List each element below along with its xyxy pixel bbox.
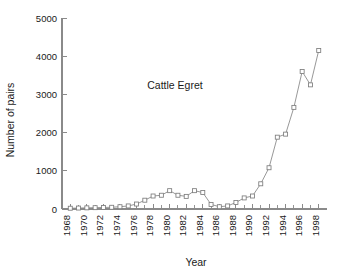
x-tick-label: 1974 <box>111 215 122 236</box>
y-axis <box>62 18 67 209</box>
data-point-marker <box>250 194 254 198</box>
data-point-marker <box>275 135 279 139</box>
data-point-marker <box>300 69 304 73</box>
data-point-marker <box>308 83 312 87</box>
data-point-marker <box>85 206 89 210</box>
cattle-egret-line-chart: 010002000300040005000 196819701972197419… <box>0 0 339 272</box>
x-tick-label: 1976 <box>128 215 139 236</box>
data-point-marker <box>209 202 213 206</box>
data-point-marker <box>118 205 122 209</box>
data-point-marker <box>151 194 155 198</box>
data-point-marker <box>242 196 246 200</box>
y-tick-label: 0 <box>52 204 57 215</box>
data-point-marker <box>110 205 114 209</box>
x-tick-label: 1992 <box>260 215 271 236</box>
y-tick-label: 3000 <box>36 89 57 100</box>
data-point-marker <box>217 205 221 209</box>
data-series-cattle-egret <box>68 48 320 210</box>
y-axis-title: Number of pairs <box>4 83 16 158</box>
data-point-marker <box>168 189 172 193</box>
data-point-marker <box>93 206 97 210</box>
data-point-marker <box>267 166 271 170</box>
x-tick-label: 1994 <box>277 215 288 236</box>
x-tick-label: 1990 <box>243 215 254 236</box>
x-tick-label: 1998 <box>310 215 321 236</box>
x-tick-label: 1988 <box>227 215 238 236</box>
y-tick-label: 2000 <box>36 127 57 138</box>
series-annotation-label: Cattle Egret <box>147 79 203 91</box>
x-tick-label: 1984 <box>194 215 205 236</box>
data-point-marker <box>284 132 288 136</box>
data-point-marker <box>176 193 180 197</box>
data-point-marker <box>259 182 263 186</box>
data-point-marker <box>126 204 130 208</box>
data-point-marker <box>143 198 147 202</box>
x-tick-label: 1980 <box>161 215 172 236</box>
data-point-marker <box>101 205 105 209</box>
data-point-marker <box>159 193 163 197</box>
x-tick-label: 1996 <box>293 215 304 236</box>
data-point-marker <box>135 202 139 206</box>
data-point-marker <box>184 194 188 198</box>
chart-figure: 010002000300040005000 196819701972197419… <box>0 0 339 272</box>
x-tick-label: 1968 <box>61 215 72 236</box>
data-point-marker <box>68 206 72 210</box>
data-point-marker <box>317 48 321 52</box>
data-point-marker <box>201 191 205 195</box>
data-point-marker <box>193 189 197 193</box>
y-tick-label: 5000 <box>36 13 57 24</box>
data-point-marker <box>292 105 296 109</box>
data-point-marker <box>234 201 238 205</box>
x-tick-label: 1986 <box>210 215 221 236</box>
data-point-marker <box>77 206 81 210</box>
y-axis-tick-labels: 010002000300040005000 <box>36 13 57 215</box>
x-tick-label: 1982 <box>177 215 188 236</box>
y-tick-label: 4000 <box>36 51 57 62</box>
x-axis-tick-labels: 1968197019721974197619781980198219841986… <box>61 215 320 236</box>
x-tick-label: 1978 <box>144 215 155 236</box>
y-tick-label: 1000 <box>36 165 57 176</box>
x-axis-title: Year <box>185 256 207 268</box>
data-point-marker <box>226 204 230 208</box>
x-tick-label: 1970 <box>78 215 89 236</box>
x-tick-label: 1972 <box>94 215 105 236</box>
